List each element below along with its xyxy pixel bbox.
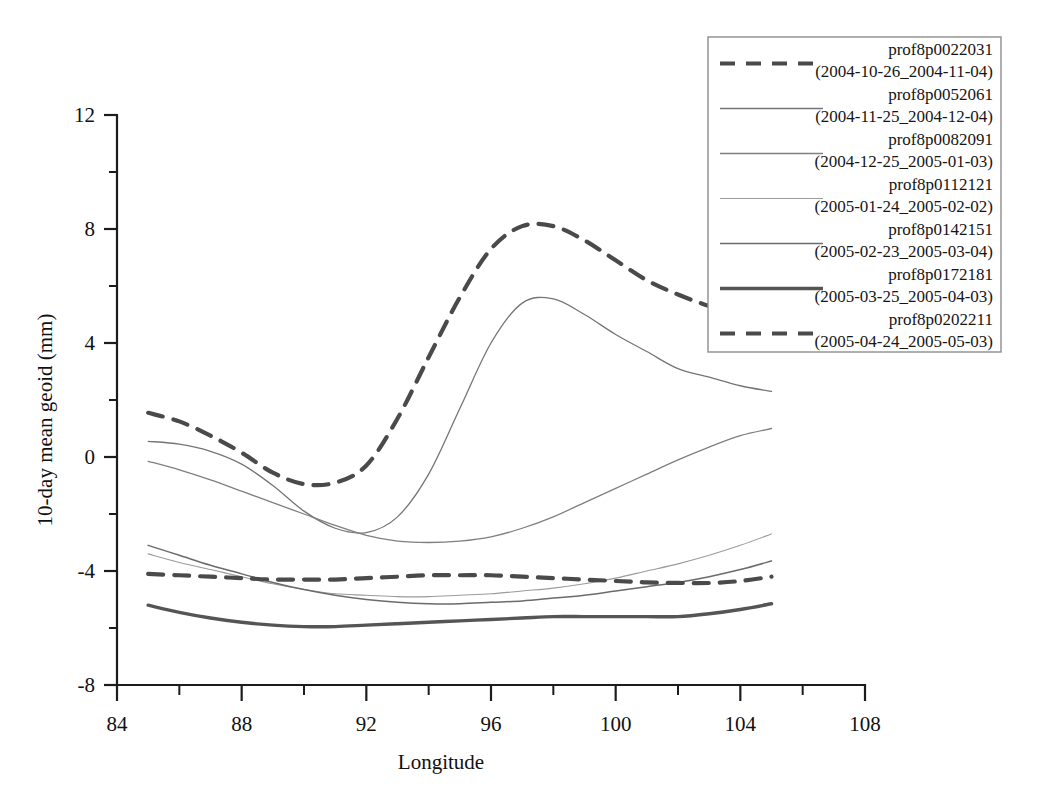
x-tick-label: 88 [231, 712, 252, 736]
y-tick-label: -8 [78, 673, 96, 697]
series-line-prof8p0112121 [148, 534, 771, 597]
legend-label-name: prof8p0142151 [888, 220, 993, 239]
legend-label-period: (2004-10-26_2004-11-04) [815, 62, 993, 81]
legend-label-period: (2005-04-24_2005-05-03) [815, 332, 993, 351]
x-tick-label: 108 [849, 712, 881, 736]
legend-label-name: prof8p0082091 [888, 130, 993, 149]
series-line-prof8p0082091 [148, 429, 771, 543]
series-line-prof8p0052061 [148, 297, 771, 533]
legend-label-name: prof8p0022031 [888, 40, 993, 59]
legend-label-name: prof8p0202211 [889, 310, 993, 329]
y-tick-label: 4 [85, 331, 96, 355]
legend-label-period: (2004-12-25_2005-01-03) [815, 152, 993, 171]
legend-label-period: (2005-03-25_2005-04-03) [815, 287, 993, 306]
x-tick-label: 84 [107, 712, 129, 736]
geoid-longitude-chart: 12840-4-884889296100104108Longitude10-da… [0, 0, 1046, 800]
y-axis-title: 10-day mean geoid (mm) [33, 314, 57, 527]
chart-canvas: 12840-4-884889296100104108Longitude10-da… [0, 0, 1046, 800]
x-tick-label: 100 [600, 712, 632, 736]
x-tick-label: 92 [356, 712, 377, 736]
series-line-prof8p0202211 [148, 574, 771, 583]
series-line-prof8p0022031 [148, 224, 771, 485]
x-tick-label: 96 [481, 712, 502, 736]
y-tick-label: 0 [85, 445, 96, 469]
legend-label-name: prof8p0052061 [888, 85, 993, 104]
y-tick-label: 12 [74, 103, 95, 127]
series-line-prof8p0172181 [148, 604, 771, 627]
x-tick-label: 104 [725, 712, 757, 736]
series-lines [148, 224, 771, 627]
y-tick-label: -4 [78, 559, 96, 583]
y-tick-label: 8 [85, 217, 96, 241]
legend-label-name: prof8p0172181 [888, 265, 993, 284]
legend-label-name: prof8p0112121 [889, 175, 993, 194]
legend-label-period: (2005-02-23_2005-03-04) [815, 242, 993, 261]
legend[interactable]: prof8p0022031(2004-10-26_2004-11-04)prof… [708, 37, 1001, 352]
x-axis-title: Longitude [398, 750, 484, 774]
legend-label-period: (2005-01-24_2005-02-02) [815, 197, 993, 216]
legend-label-period: (2004-11-25_2004-12-04) [815, 107, 993, 126]
